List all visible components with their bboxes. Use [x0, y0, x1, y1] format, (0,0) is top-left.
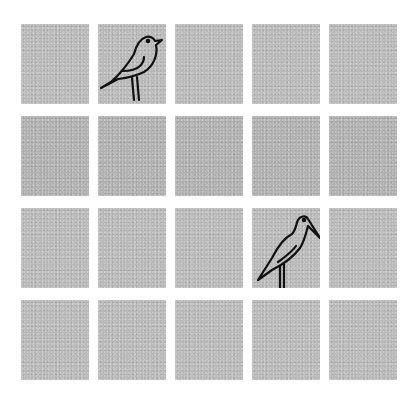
heron-icon	[252, 208, 320, 288]
tile-r3-c4[interactable]	[329, 300, 397, 380]
tile-r3-c2[interactable]	[175, 300, 243, 380]
tile-r0-c4[interactable]	[329, 24, 397, 104]
tile-r3-c1[interactable]	[98, 300, 166, 380]
tile-r3-c0[interactable]	[21, 300, 89, 380]
tile-r2-c2[interactable]	[175, 208, 243, 288]
tile-r0-c1[interactable]	[98, 24, 166, 104]
tile-r1-c0[interactable]	[21, 116, 89, 196]
songbird-icon	[98, 24, 166, 104]
tile-r1-c4[interactable]	[329, 116, 397, 196]
tile-r3-c3[interactable]	[252, 300, 320, 380]
tile-r0-c3[interactable]	[252, 24, 320, 104]
tile-r1-c1[interactable]	[98, 116, 166, 196]
tile-r2-c0[interactable]	[21, 208, 89, 288]
tile-r1-c3[interactable]	[252, 116, 320, 196]
tile-r1-c2[interactable]	[175, 116, 243, 196]
tile-r0-c0[interactable]	[21, 24, 89, 104]
tile-r2-c3[interactable]	[252, 208, 320, 288]
tile-grid	[21, 24, 397, 380]
tile-r0-c2[interactable]	[175, 24, 243, 104]
tile-r2-c1[interactable]	[98, 208, 166, 288]
tile-r2-c4[interactable]	[329, 208, 397, 288]
